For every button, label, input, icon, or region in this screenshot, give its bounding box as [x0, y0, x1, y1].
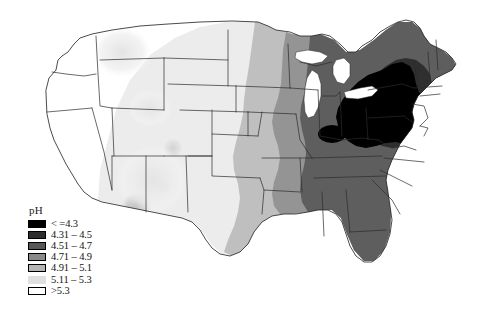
legend-row: 4.91 – 5.1 — [28, 263, 114, 274]
legend-label-4-71-4-9: 4.71 – 4.9 — [51, 252, 92, 262]
legend-label-5-11-5-3: 5.11 – 5.3 — [51, 275, 92, 285]
legend-swatch-4-51-4-7 — [28, 242, 46, 250]
legend-label-4-31-4-5: 4.31 – 4.5 — [51, 230, 92, 240]
legend-label-4-51-4-7: 4.51 – 4.7 — [51, 241, 92, 251]
patch-wyoming — [128, 90, 172, 126]
legend-swatch-4-31-4-5 — [28, 231, 46, 239]
ph-deposition-map-figure: pH < =4.3 4.31 – 4.5 4.51 – 4.7 4.71 – 4… — [0, 0, 481, 310]
legend-label-gt-5-3: >5.3 — [51, 286, 70, 296]
legend-row: 4.31 – 4.5 — [28, 229, 114, 240]
legend-swatch-le-4-3 — [28, 220, 46, 228]
legend-row: 4.51 – 4.7 — [28, 240, 114, 251]
border-ct-ny — [420, 94, 440, 96]
legend-swatch-gt-5-3 — [28, 287, 46, 295]
legend-swatch-4-91-5-1 — [28, 264, 46, 272]
legend-swatch-5-11-5-3 — [28, 276, 46, 284]
legend-row: < =4.3 — [28, 218, 114, 229]
legend-label-le-4-3: < =4.3 — [51, 219, 78, 229]
legend-row: >5.3 — [28, 285, 114, 296]
legend-label-4-91-5-1: 4.91 – 5.1 — [51, 263, 92, 273]
border-de-md — [420, 126, 428, 136]
legend-row: 5.11 – 5.3 — [28, 274, 114, 285]
patch-puget-sound — [58, 32, 78, 48]
legend-row: 4.71 – 4.9 — [28, 252, 114, 263]
legend-swatch-4-71-4-9 — [28, 253, 46, 261]
patch-montana-idaho — [92, 26, 152, 78]
ph-legend: pH < =4.3 4.31 – 4.5 4.51 – 4.7 4.71 – 4… — [28, 205, 114, 296]
legend-title: pH — [29, 205, 114, 216]
border-nj — [412, 104, 428, 126]
